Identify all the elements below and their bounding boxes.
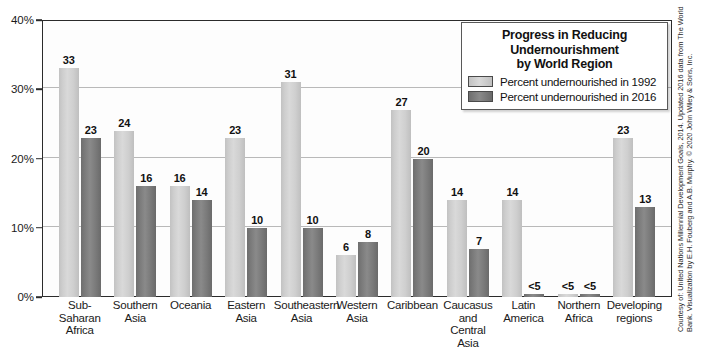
bar-value-label: 14 [451, 186, 463, 198]
bar-value-label: 16 [174, 172, 186, 184]
legend-swatch [468, 76, 493, 87]
category-label-line: Asia [235, 312, 256, 324]
category-label: SoutheasternAsia [274, 299, 329, 324]
credit-block: Courtesy of: United Nations Millennial D… [676, 0, 713, 344]
y-axis-tick-label: 20% [11, 153, 34, 165]
category-label-line: Southern [113, 299, 158, 311]
y-axis-tick-label: 40% [11, 14, 34, 26]
category-label-line: Northern [557, 299, 600, 311]
bar: <5 [524, 294, 544, 297]
category-label: Sub-SaharanAfrica [52, 299, 107, 337]
bar-value-label: 16 [140, 172, 152, 184]
bar-value-label: 23 [85, 124, 97, 136]
category-label-line: regions [616, 312, 652, 324]
bar-value-label: 23 [229, 124, 241, 136]
bar-value-label: <5 [528, 280, 540, 292]
y-axis: 0%10%20%30%40% [0, 20, 42, 297]
bar-value-label: 20 [418, 145, 430, 157]
bar: 23 [81, 138, 101, 297]
bar: 23 [613, 138, 633, 297]
legend-title-line: Undernourishment [510, 43, 619, 57]
category-label-line: Sub-Saharan [59, 299, 101, 324]
bar: 31 [281, 82, 301, 297]
bar: 27 [391, 110, 411, 297]
category-label-line: Asia [291, 312, 312, 324]
bar: 24 [114, 131, 134, 297]
category-label-line: Caribbean [387, 299, 438, 311]
bar-value-label: 13 [639, 193, 651, 205]
bar-value-label: 24 [118, 117, 130, 129]
bar: 14 [192, 200, 212, 297]
bar: 10 [303, 228, 323, 297]
bar: 33 [59, 68, 79, 297]
y-axis-tick-label: 10% [11, 222, 34, 234]
category-label: WesternAsia [329, 299, 384, 324]
bar-value-label: 23 [617, 124, 629, 136]
category-label: EasternAsia [218, 299, 273, 324]
y-axis-tick-label: 30% [11, 83, 34, 95]
bar: 10 [247, 228, 267, 297]
bar: 7 [469, 249, 489, 297]
category-label-line: and [459, 312, 477, 324]
legend-label: Percent undernourished in 2016 [500, 91, 656, 103]
bar: 13 [635, 207, 655, 297]
category-label: SouthernAsia [107, 299, 162, 324]
y-axis-tick-label: 0% [17, 291, 34, 303]
bar-value-label: 6 [343, 241, 349, 253]
legend-title: Progress in ReducingUndernourishmentby W… [468, 28, 661, 72]
category-label-line: Western [337, 299, 378, 311]
bar: 16 [136, 186, 156, 297]
category-label-line: Africa [66, 324, 94, 336]
bar: 6 [336, 255, 356, 297]
legend-swatch [468, 91, 493, 102]
category-label-line: Latin [512, 299, 536, 311]
category-label: CaucasusandCentral Asia [440, 299, 495, 349]
bar: <5 [580, 294, 600, 297]
bar-value-label: 14 [506, 186, 518, 198]
category-label-line: Central Asia [450, 324, 485, 349]
category-label: Developingregions [607, 299, 662, 324]
bar: 16 [170, 186, 190, 297]
bar: 14 [447, 200, 467, 297]
category-label-line: Eastern [227, 299, 265, 311]
credit-text: Courtesy of: United Nations Millennial D… [676, 2, 695, 332]
bar: 14 [502, 200, 522, 297]
category-label-line: Developing [607, 299, 662, 311]
legend-entries: Percent undernourished in 1992Percent un… [468, 76, 661, 103]
category-label: Caribbean [385, 299, 440, 312]
bar-value-label: 8 [365, 228, 371, 240]
category-label-line: Asia [346, 312, 367, 324]
bar-value-label: 10 [251, 214, 263, 226]
bar-value-label: <5 [562, 280, 574, 292]
bar: 23 [225, 138, 245, 297]
bar-value-label: 14 [196, 186, 208, 198]
bar-value-label: 31 [285, 68, 297, 80]
chart-legend: Progress in ReducingUndernourishmentby W… [461, 22, 668, 110]
category-label: Oceania [163, 299, 218, 312]
category-label-line: Africa [565, 312, 593, 324]
category-label-line: Caucasus [443, 299, 492, 311]
legend-label: Percent undernourished in 1992 [500, 76, 656, 88]
legend-entry: Percent undernourished in 1992 [468, 76, 661, 88]
category-label-line: America [503, 312, 543, 324]
bar: <5 [558, 294, 578, 297]
category-label: LatinAmerica [496, 299, 551, 324]
legend-title-line: Progress in Reducing [502, 28, 627, 42]
bar-value-label: 27 [396, 96, 408, 108]
legend-entry: Percent undernourished in 2016 [468, 91, 661, 103]
legend-title-line: by World Region [516, 57, 612, 71]
bar-value-label: 10 [307, 214, 319, 226]
category-label-line: Asia [124, 312, 145, 324]
category-label: NorthernAfrica [551, 299, 606, 324]
bar: 8 [358, 242, 378, 297]
bar-value-label: 7 [476, 235, 482, 247]
bar-value-label: <5 [584, 280, 596, 292]
x-axis-category-labels: Sub-SaharanAfricaSouthernAsiaOceaniaEast… [42, 299, 672, 344]
bar-value-label: 33 [63, 54, 75, 66]
bar: 20 [413, 159, 433, 298]
category-label-line: Oceania [170, 299, 211, 311]
